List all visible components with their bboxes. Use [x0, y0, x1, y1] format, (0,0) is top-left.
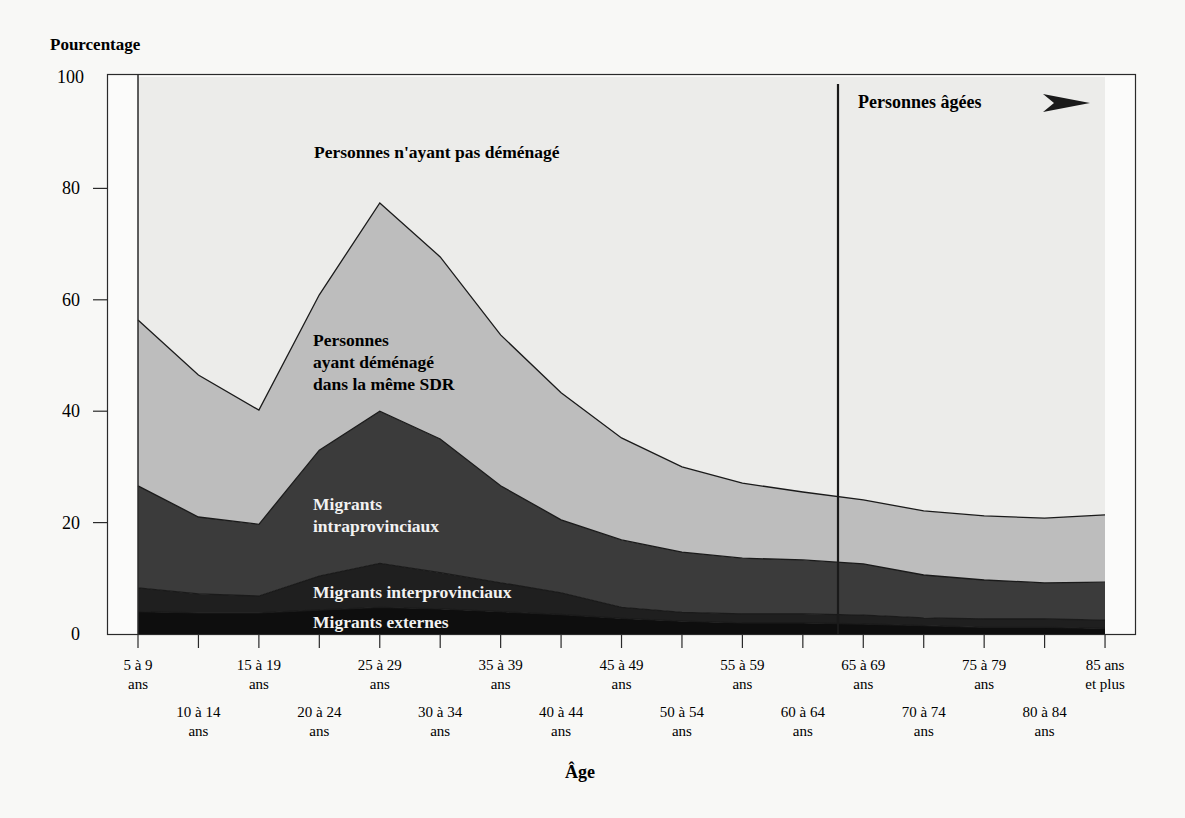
- x-tick-label: ans: [793, 723, 813, 739]
- label-same-sdr-1: Personnes: [313, 330, 389, 350]
- x-tick-label: ans: [430, 723, 450, 739]
- x-tick-label: 30 à 34: [418, 704, 463, 720]
- x-tick-label: 35 à 39: [479, 657, 523, 673]
- label-interprov: Migrants interprovinciaux: [313, 582, 512, 602]
- y-tick-label: 0: [71, 624, 80, 644]
- label-non-movers: Personnes n'ayant pas déménagé: [314, 142, 560, 162]
- x-tick-label: ans: [914, 723, 934, 739]
- x-tick-label: 50 à 54: [660, 704, 705, 720]
- x-tick-label: ans: [672, 723, 692, 739]
- x-tick-label: 80 à 84: [1023, 704, 1068, 720]
- x-tick-label: ans: [370, 676, 390, 692]
- x-tick-label: 55 à 59: [720, 657, 764, 673]
- x-tick-label: 25 à 29: [358, 657, 402, 673]
- y-axis: 020406080100: [57, 67, 108, 644]
- label-same-sdr-2: ayant déménagé: [313, 352, 434, 372]
- x-tick-label: ans: [1035, 723, 1055, 739]
- x-tick-label: ans: [974, 676, 994, 692]
- label-intraprov-1: Migrants: [313, 494, 382, 514]
- x-tick-label: ans: [551, 723, 571, 739]
- x-tick-label: 45 à 49: [599, 657, 643, 673]
- x-tick-label: ans: [491, 676, 511, 692]
- elderly-label: Personnes âgées: [858, 92, 981, 112]
- x-tick-label: 5 à 9: [123, 657, 152, 673]
- x-tick-label: 40 à 44: [539, 704, 584, 720]
- y-tick-label: 60: [62, 290, 80, 310]
- area-layers: [138, 77, 1105, 634]
- x-tick-label: ans: [188, 723, 208, 739]
- x-tick-label: 75 à 79: [962, 657, 1006, 673]
- x-tick-label: 10 à 14: [176, 704, 221, 720]
- x-axis: 5 à 9ans10 à 14ans15 à 19ans20 à 24ans25…: [123, 634, 1125, 739]
- label-same-sdr-3: dans la même SDR: [313, 374, 455, 394]
- x-tick-label: ans: [249, 676, 269, 692]
- x-tick-label: ans: [612, 676, 632, 692]
- x-tick-label: ans: [128, 676, 148, 692]
- x-axis-title: Âge: [565, 761, 595, 782]
- y-tick-label: 40: [62, 401, 80, 421]
- x-tick-label: ans: [732, 676, 752, 692]
- x-tick-label: ans: [309, 723, 329, 739]
- y-tick-label: 100: [57, 67, 84, 87]
- x-tick-label: 65 à 69: [841, 657, 885, 673]
- label-external: Migrants externes: [313, 612, 449, 632]
- x-tick-label: 15 à 19: [237, 657, 281, 673]
- x-tick-label: ans: [853, 676, 873, 692]
- x-tick-label: et plus: [1085, 676, 1125, 692]
- x-tick-label: 85 ans: [1086, 657, 1125, 673]
- stacked-area-chart: Pourcentage Personnes âgées 020406080100…: [0, 0, 1185, 818]
- y-tick-label: 20: [62, 513, 80, 533]
- x-tick-label: 60 à 64: [781, 704, 826, 720]
- x-tick-label: 20 à 24: [297, 704, 342, 720]
- label-intraprov-2: intraprovinciaux: [313, 516, 439, 536]
- y-tick-label: 80: [62, 178, 80, 198]
- x-tick-label: 70 à 74: [902, 704, 947, 720]
- y-axis-title: Pourcentage: [50, 35, 141, 54]
